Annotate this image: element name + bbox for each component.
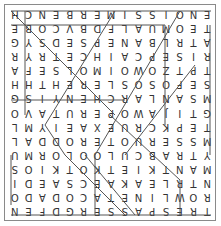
grid-cell[interactable]: O [90,148,104,162]
grid-cell[interactable]: R [77,106,91,120]
grid-cell[interactable]: O [118,64,132,78]
grid-cell[interactable]: S [173,134,187,148]
grid-cell[interactable]: U [145,21,159,35]
grid-cell[interactable]: F [173,78,187,92]
grid-cell[interactable]: O [49,148,63,162]
grid-cell[interactable]: K [118,177,132,191]
grid-cell[interactable]: I [187,49,201,63]
grid-cell[interactable]: A [77,120,91,134]
grid-cell[interactable]: E [63,49,77,63]
grid-cell[interactable]: G [200,106,214,120]
grid-cell[interactable]: Y [22,49,36,63]
grid-cell[interactable]: I [173,106,187,120]
grid-cell[interactable]: L [63,148,77,162]
grid-cell[interactable]: O [8,191,22,205]
grid-cell[interactable]: K [49,162,63,176]
grid-cell[interactable]: K [90,162,104,176]
grid-cell[interactable]: N [63,92,77,106]
grid-cell[interactable]: U [8,148,22,162]
grid-cell[interactable]: O [145,64,159,78]
grid-cell[interactable]: S [118,205,132,219]
grid-cell[interactable]: O [77,162,91,176]
grid-cell[interactable]: N [200,177,214,191]
grid-cell[interactable]: F [35,205,49,219]
grid-cell[interactable]: C [145,120,159,134]
grid-cell[interactable]: A [145,106,159,120]
grid-cell[interactable]: O [187,191,201,205]
grid-cell[interactable]: E [35,64,49,78]
grid-cell[interactable]: A [132,177,146,191]
grid-cell[interactable]: S [132,7,146,21]
grid-cell[interactable]: R [35,49,49,63]
grid-cell[interactable]: E [145,177,159,191]
grid-cell[interactable]: O [35,21,49,35]
grid-cell[interactable]: I [35,162,49,176]
grid-cell[interactable]: D [22,191,36,205]
grid-cell[interactable]: U [132,134,146,148]
grid-cell[interactable]: H [49,78,63,92]
grid-cell[interactable]: B [145,148,159,162]
grid-cell[interactable]: R [8,49,22,63]
grid-cell[interactable]: M [159,21,173,35]
grid-cell[interactable]: T [187,106,201,120]
grid-cell[interactable]: A [187,162,201,176]
grid-cell[interactable]: P [145,205,159,219]
grid-cell[interactable]: N [118,35,132,49]
grid-cell[interactable]: D [90,21,104,35]
grid-cell[interactable]: D [49,191,63,205]
grid-cell[interactable]: M [200,162,214,176]
grid-cell[interactable]: B [145,35,159,49]
grid-cell[interactable]: M [22,120,36,134]
grid-cell[interactable]: M [22,148,36,162]
grid-cell[interactable]: R [118,92,132,106]
grid-cell[interactable]: E [90,106,104,120]
grid-cell[interactable]: S [173,49,187,63]
grid-cell[interactable]: S [8,162,22,176]
grid-cell[interactable]: Y [200,148,214,162]
grid-cell[interactable]: E [159,49,173,63]
grid-cell[interactable]: M [90,64,104,78]
grid-cell[interactable]: C [22,7,36,21]
grid-cell[interactable]: T [200,21,214,35]
grid-cell[interactable]: E [22,205,36,219]
grid-cell[interactable]: C [104,92,118,106]
grid-cell[interactable]: C [77,191,91,205]
grid-cell[interactable]: E [200,7,214,21]
grid-cell[interactable]: S [22,92,36,106]
grid-cell[interactable]: O [159,78,173,92]
grid-cell[interactable]: I [104,64,118,78]
grid-cell[interactable]: S [63,177,77,191]
grid-cell[interactable]: O [118,134,132,148]
grid-cell[interactable]: P [145,49,159,63]
grid-cell[interactable]: U [63,106,77,120]
grid-cell[interactable]: H [90,49,104,63]
grid-cell[interactable]: L [63,64,77,78]
grid-cell[interactable]: R [200,191,214,205]
grid-cell[interactable]: D [49,134,63,148]
grid-cell[interactable]: D [22,177,36,191]
grid-cell[interactable]: A [173,92,187,106]
grid-cell[interactable]: K [159,120,173,134]
grid-cell[interactable]: R [132,120,146,134]
grid-cell[interactable]: Z [159,64,173,78]
grid-cell[interactable]: P [173,120,187,134]
grid-cell[interactable]: T [187,35,201,49]
grid-cell[interactable]: M [104,7,118,21]
grid-cell[interactable]: F [22,64,36,78]
grid-cell[interactable]: J [159,106,173,120]
grid-cell[interactable]: B [77,21,91,35]
grid-cell[interactable]: E [159,134,173,148]
grid-cell[interactable]: L [8,134,22,148]
grid-cell[interactable]: E [90,78,104,92]
grid-cell[interactable]: H [90,92,104,106]
grid-cell[interactable]: S [77,35,91,49]
grid-cell[interactable]: E [90,7,104,21]
grid-cell[interactable]: O [173,7,187,21]
grid-cell[interactable]: R [173,35,187,49]
grid-cell[interactable]: P [104,106,118,120]
grid-cell[interactable]: W [132,64,146,78]
grid-cell[interactable]: L [8,120,22,134]
grid-cell[interactable]: K [145,162,159,176]
grid-cell[interactable]: I [104,49,118,63]
grid-cell[interactable]: M [200,134,214,148]
